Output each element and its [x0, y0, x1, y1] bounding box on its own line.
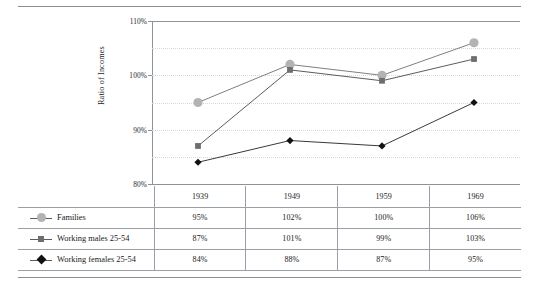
data-point-diamond-1939	[194, 159, 201, 166]
chart-data-table: 1939194919591969Families95%102%100%106%W…	[18, 186, 521, 271]
table-row: Working males 25-5487%101%99%103%	[18, 228, 521, 249]
data-point-circle-1939	[193, 98, 202, 107]
series-layer	[152, 21, 520, 184]
legend-label: Working females 25-54	[57, 255, 136, 264]
table-cell-diamond-1939: 84%	[154, 249, 246, 270]
table-cell-square-1949: 101%	[246, 228, 338, 249]
legend-row-diamond: Working females 25-54	[18, 249, 154, 270]
data-point-square-1969	[471, 56, 477, 62]
table-cell-diamond-1969: 95%	[430, 249, 521, 270]
table-cell-square-1939: 87%	[154, 228, 246, 249]
series-line-circle	[198, 43, 474, 103]
legend-diamond-icon	[30, 254, 52, 266]
y-tick-label-100: 100%	[129, 71, 147, 80]
table-row: Families95%102%100%106%	[18, 207, 521, 228]
table-cell-circle-1949: 102%	[246, 207, 338, 228]
table-column-header-1959: 1959	[338, 186, 430, 207]
data-point-circle-1969	[469, 38, 478, 47]
table-cell-circle-1939: 95%	[154, 207, 246, 228]
table-corner-cell	[18, 186, 154, 207]
table-cell-circle-1959: 100%	[338, 207, 430, 228]
table-cell-circle-1969: 106%	[430, 207, 521, 228]
data-point-square-1959	[379, 78, 385, 84]
data-point-diamond-1969	[470, 99, 477, 106]
x-axis-line	[152, 184, 520, 185]
table-column-header-1949: 1949	[246, 186, 338, 207]
legend-label: Families	[57, 213, 86, 222]
table-cell-diamond-1959: 87%	[338, 249, 430, 270]
plot-area-wrapper: 110%100%90%80%	[152, 21, 520, 184]
table-row: Working females 25-5484%88%87%95%	[18, 249, 521, 270]
y-tick-label-110: 110%	[130, 17, 147, 26]
data-point-square-1949	[287, 67, 293, 73]
legend-row-square: Working males 25-54	[18, 228, 154, 249]
table-cell-square-1959: 99%	[338, 228, 430, 249]
legend-square-icon	[30, 233, 52, 245]
income-ratio-line-chart: Ratio of Incomes 110%100%90%80% 19391949…	[0, 0, 539, 284]
legend-label: Working males 25-54	[57, 234, 129, 243]
legend-row-circle: Families	[18, 207, 154, 228]
table-cell-diamond-1949: 88%	[246, 249, 338, 270]
data-point-diamond-1949	[286, 137, 293, 144]
series-line-square	[198, 59, 474, 146]
table-column-header-1939: 1939	[154, 186, 246, 207]
table-header-row: 1939194919591969	[18, 186, 521, 207]
data-point-square-1939	[195, 143, 201, 149]
data-point-diamond-1959	[378, 142, 385, 149]
y-tick-label-90: 90%	[133, 125, 147, 134]
legend-circle-icon	[30, 212, 52, 224]
table-column-header-1969: 1969	[430, 186, 521, 207]
table-cell-square-1969: 103%	[430, 228, 521, 249]
y-axis-title: Ratio of Incomes	[97, 46, 106, 105]
